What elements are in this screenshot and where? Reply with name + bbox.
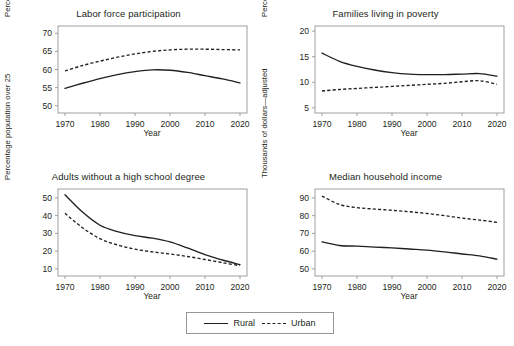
y-axis-label: Percentage population over 25 <box>3 55 12 180</box>
svg-text:1970: 1970 <box>55 119 74 129</box>
svg-text:50: 50 <box>42 193 52 203</box>
y-axis-label: Thousands of dollars—adjusted <box>260 50 269 178</box>
svg-text:1970: 1970 <box>312 282 331 292</box>
svg-text:70: 70 <box>42 28 52 38</box>
x-axis-label: Year <box>315 291 503 301</box>
svg-text:10: 10 <box>299 77 309 87</box>
panel-median-household-income: Median household income Thousands of dol… <box>257 163 514 323</box>
legend-item-rural: Rural <box>204 318 255 328</box>
svg-text:1980: 1980 <box>347 119 366 129</box>
svg-text:30: 30 <box>42 228 52 238</box>
svg-text:1980: 1980 <box>90 119 109 129</box>
svg-text:2020: 2020 <box>487 119 506 129</box>
svg-text:50: 50 <box>42 101 52 111</box>
svg-text:2010: 2010 <box>195 282 214 292</box>
svg-text:80: 80 <box>299 211 309 221</box>
svg-text:1990: 1990 <box>382 119 401 129</box>
svg-text:10: 10 <box>42 264 52 274</box>
legend-item-urban: Urban <box>262 318 316 328</box>
svg-text:65: 65 <box>42 46 52 56</box>
svg-text:2010: 2010 <box>452 282 471 292</box>
svg-text:60: 60 <box>299 246 309 256</box>
svg-text:2010: 2010 <box>195 119 214 129</box>
svg-text:20: 20 <box>42 246 52 256</box>
series-legend: Rural Urban <box>186 312 334 334</box>
svg-text:1990: 1990 <box>382 282 401 292</box>
svg-text:2020: 2020 <box>230 282 249 292</box>
svg-text:90: 90 <box>299 193 309 203</box>
multi-panel-figure: Labor force participation Percentage pop… <box>0 0 514 346</box>
svg-text:2000: 2000 <box>160 119 179 129</box>
x-axis-label: Year <box>315 128 503 138</box>
legend-key-dashed-line <box>262 323 286 324</box>
svg-text:2020: 2020 <box>487 282 506 292</box>
svg-text:50: 50 <box>299 264 309 274</box>
svg-text:1990: 1990 <box>125 282 144 292</box>
panel-families-living-in-poverty: Families living in poverty Percentage fa… <box>257 0 514 160</box>
svg-text:1970: 1970 <box>55 282 74 292</box>
panel-adults-without-high-school-degree: Adults without a high school degree Perc… <box>0 163 257 323</box>
svg-text:70: 70 <box>299 228 309 238</box>
svg-text:2000: 2000 <box>417 282 436 292</box>
x-axis-label: Year <box>58 291 246 301</box>
svg-text:2020: 2020 <box>230 119 249 129</box>
svg-text:15: 15 <box>299 52 309 62</box>
svg-text:5: 5 <box>304 103 309 113</box>
svg-text:1990: 1990 <box>125 119 144 129</box>
svg-text:1970: 1970 <box>312 119 331 129</box>
x-axis-label: Year <box>58 128 246 138</box>
svg-text:2010: 2010 <box>452 119 471 129</box>
svg-text:20: 20 <box>299 26 309 36</box>
panel-labor-force-participation: Labor force participation Percentage pop… <box>0 0 257 160</box>
svg-text:55: 55 <box>42 83 52 93</box>
svg-text:1980: 1980 <box>90 282 109 292</box>
legend-key-solid-line <box>204 323 228 324</box>
svg-text:60: 60 <box>42 65 52 75</box>
legend-label: Rural <box>233 318 255 328</box>
svg-text:1980: 1980 <box>347 282 366 292</box>
legend-label: Urban <box>291 318 316 328</box>
svg-text:2000: 2000 <box>160 282 179 292</box>
svg-text:40: 40 <box>42 211 52 221</box>
svg-text:2000: 2000 <box>417 119 436 129</box>
